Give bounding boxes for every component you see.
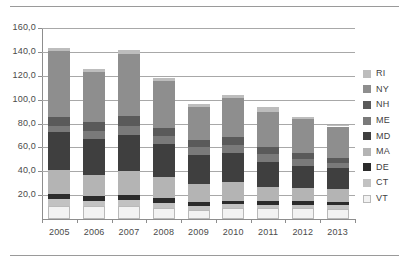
- bar-segment-NH-2005[interactable]: [48, 117, 70, 126]
- bar-segment-DE-2007[interactable]: [118, 195, 140, 200]
- bar-segment-NH-2007[interactable]: [118, 116, 140, 126]
- bar-segment-MD-2010[interactable]: [222, 153, 244, 182]
- stacked-bar[interactable]: [188, 104, 210, 219]
- bar-segment-DE-2011[interactable]: [257, 201, 279, 205]
- bar-segment-CT-2008[interactable]: [153, 203, 175, 208]
- bar-segment-MD-2011[interactable]: [257, 162, 279, 188]
- bar-segment-VT-2007[interactable]: [118, 206, 140, 219]
- legend-item-CT[interactable]: CT: [363, 175, 407, 191]
- bar-segment-NH-2008[interactable]: [153, 128, 175, 136]
- legend-item-ME[interactable]: ME: [363, 113, 407, 129]
- bar-segment-CT-2011[interactable]: [257, 205, 279, 208]
- bar-segment-MD-2009[interactable]: [188, 155, 210, 184]
- bar-segment-VT-2013[interactable]: [327, 209, 349, 219]
- bar-segment-RI-2013[interactable]: [327, 125, 349, 127]
- stacked-bar[interactable]: [118, 50, 140, 219]
- bar-segment-ME-2013[interactable]: [327, 163, 349, 168]
- bar-segment-MD-2005[interactable]: [48, 132, 70, 170]
- stacked-bar[interactable]: [292, 117, 314, 219]
- stacked-bar[interactable]: [327, 125, 349, 219]
- bar-segment-ME-2007[interactable]: [118, 126, 140, 136]
- bar-segment-CT-2006[interactable]: [83, 201, 105, 206]
- bar-segment-NY-2008[interactable]: [153, 81, 175, 128]
- bar-group-2007[interactable]: [118, 50, 140, 219]
- bar-segment-CT-2012[interactable]: [292, 205, 314, 209]
- bar-segment-VT-2006[interactable]: [83, 206, 105, 219]
- bar-segment-NY-2009[interactable]: [188, 107, 210, 140]
- bar-segment-MD-2007[interactable]: [118, 135, 140, 171]
- bar-segment-RI-2012[interactable]: [292, 117, 314, 119]
- bar-segment-NY-2011[interactable]: [257, 112, 279, 148]
- bar-segment-DE-2012[interactable]: [292, 201, 314, 205]
- bar-segment-NY-2005[interactable]: [48, 51, 70, 117]
- bar-segment-DE-2010[interactable]: [222, 201, 244, 205]
- bar-segment-DE-2005[interactable]: [48, 194, 70, 199]
- bar-segment-MA-2005[interactable]: [48, 170, 70, 194]
- bar-group-2010[interactable]: [222, 95, 244, 219]
- bar-group-2011[interactable]: [257, 107, 279, 219]
- bar-group-2013[interactable]: [327, 125, 349, 219]
- bar-segment-VT-2010[interactable]: [222, 208, 244, 219]
- bar-segment-NH-2010[interactable]: [222, 137, 244, 145]
- bar-segment-NY-2006[interactable]: [83, 72, 105, 123]
- legend-item-MA[interactable]: MA: [363, 144, 407, 160]
- bar-segment-RI-2011[interactable]: [257, 107, 279, 111]
- bar-segment-CT-2005[interactable]: [48, 199, 70, 206]
- bar-group-2012[interactable]: [292, 117, 314, 219]
- legend-item-VT[interactable]: VT: [363, 191, 407, 207]
- bar-segment-MD-2006[interactable]: [83, 139, 105, 175]
- bar-segment-VT-2009[interactable]: [188, 210, 210, 219]
- bar-segment-MA-2006[interactable]: [83, 175, 105, 195]
- bar-segment-MA-2009[interactable]: [188, 184, 210, 202]
- bar-segment-NH-2011[interactable]: [257, 147, 279, 154]
- bar-segment-DE-2008[interactable]: [153, 198, 175, 203]
- bar-segment-NH-2006[interactable]: [83, 122, 105, 131]
- bar-segment-CT-2010[interactable]: [222, 204, 244, 208]
- bar-group-2006[interactable]: [83, 69, 105, 219]
- legend-item-DE[interactable]: DE: [363, 160, 407, 176]
- bar-segment-MA-2013[interactable]: [327, 189, 349, 202]
- legend-item-NH[interactable]: NH: [363, 97, 407, 113]
- bar-segment-ME-2009[interactable]: [188, 147, 210, 155]
- bar-group-2008[interactable]: [153, 78, 175, 219]
- bar-segment-NY-2010[interactable]: [222, 98, 244, 137]
- bar-segment-MA-2010[interactable]: [222, 182, 244, 201]
- bar-segment-VT-2005[interactable]: [48, 206, 70, 219]
- bar-segment-NH-2009[interactable]: [188, 140, 210, 148]
- bar-segment-MD-2008[interactable]: [153, 144, 175, 177]
- bar-segment-RI-2005[interactable]: [48, 48, 70, 51]
- bar-segment-RI-2008[interactable]: [153, 78, 175, 82]
- bar-segment-MA-2007[interactable]: [118, 171, 140, 194]
- bar-segment-NY-2012[interactable]: [292, 119, 314, 152]
- stacked-bar[interactable]: [222, 95, 244, 219]
- stacked-bar[interactable]: [83, 69, 105, 219]
- bar-segment-MA-2011[interactable]: [257, 187, 279, 201]
- bar-segment-ME-2011[interactable]: [257, 154, 279, 162]
- legend-item-RI[interactable]: RI: [363, 66, 407, 82]
- bar-segment-MD-2012[interactable]: [292, 166, 314, 188]
- bar-group-2009[interactable]: [188, 104, 210, 219]
- bar-segment-DE-2013[interactable]: [327, 202, 349, 206]
- bar-segment-NH-2012[interactable]: [292, 153, 314, 160]
- legend-item-NY[interactable]: NY: [363, 82, 407, 98]
- bar-segment-ME-2005[interactable]: [48, 126, 70, 132]
- bar-segment-CT-2009[interactable]: [188, 206, 210, 210]
- bar-segment-RI-2006[interactable]: [83, 69, 105, 72]
- bar-segment-CT-2013[interactable]: [327, 205, 349, 209]
- stacked-bar[interactable]: [257, 107, 279, 219]
- bar-segment-NH-2013[interactable]: [327, 158, 349, 163]
- bar-segment-RI-2010[interactable]: [222, 95, 244, 98]
- legend-item-MD[interactable]: MD: [363, 128, 407, 144]
- bar-segment-VT-2012[interactable]: [292, 208, 314, 219]
- stacked-bar[interactable]: [48, 48, 70, 219]
- bar-segment-DE-2009[interactable]: [188, 202, 210, 206]
- bar-group-2005[interactable]: [48, 48, 70, 219]
- bar-segment-CT-2007[interactable]: [118, 200, 140, 206]
- bar-segment-VT-2011[interactable]: [257, 208, 279, 219]
- bar-segment-VT-2008[interactable]: [153, 208, 175, 219]
- bar-segment-MA-2008[interactable]: [153, 177, 175, 198]
- bar-segment-RI-2007[interactable]: [118, 50, 140, 54]
- bar-segment-NY-2013[interactable]: [327, 127, 349, 158]
- bar-segment-ME-2008[interactable]: [153, 136, 175, 144]
- bar-segment-NY-2007[interactable]: [118, 54, 140, 115]
